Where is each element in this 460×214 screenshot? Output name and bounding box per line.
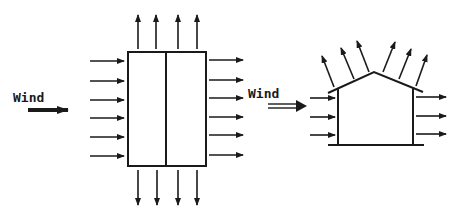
side-suction-arrows-bottom [138,170,197,205]
side-suction-arrows-top [138,15,197,49]
leeward-suction-arrows [209,60,243,155]
plan-view: Wind [13,15,243,205]
arrow-icon [322,56,334,87]
house-section-outline [328,72,424,145]
arrow-icon [341,48,354,79]
windward-pressure-arrows [90,61,124,156]
section-view: Wind [248,41,446,145]
arrow-icon [357,41,369,72]
wind-label-section: Wind [248,86,279,101]
roof-line [328,72,423,93]
arrow-icon [383,42,395,72]
windward-wall-pressure-arrows [310,98,335,135]
roof-suction-arrows [322,41,427,87]
arrow-icon [416,55,427,86]
wind-direction-arrow-section [268,100,307,112]
wind-label-plan: Wind [13,90,44,105]
arrow-icon [399,49,411,79]
leeward-wall-suction-arrows [416,97,446,134]
wind-pressure-diagram: Wind [0,0,460,214]
